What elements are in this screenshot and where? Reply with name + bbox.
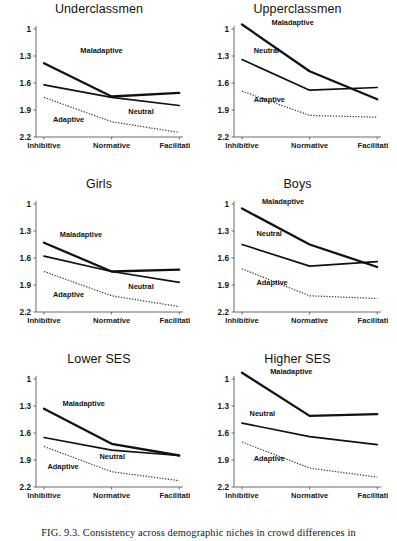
panel-boys: Boys 2.21.91.61.31InhibitiveNormativeFac…: [198, 175, 397, 350]
x-tick-label: Facilitative: [358, 141, 388, 150]
y-tick-label: 1.3: [20, 227, 32, 236]
panel-lower-ses: Lower SES 2.21.91.61.31InhibitiveNormati…: [0, 350, 198, 508]
plot-area: 2.21.91.61.31InhibitiveNormativeFacilita…: [198, 369, 397, 519]
x-tick-label: Normative: [291, 316, 328, 325]
y-tick-label: 1: [224, 375, 229, 384]
x-tick-label: Inhibitive: [225, 316, 258, 325]
series-label-neutral: Neutral: [128, 107, 153, 116]
chart-svg: 2.21.91.61.31InhibitiveNormativeFacilita…: [0, 19, 190, 169]
series-label-adaptive: Adaptive: [53, 290, 84, 299]
series-label-neutral: Neutral: [100, 452, 125, 461]
x-tick-label: Normative: [291, 491, 328, 500]
figure-caption: FIG. 9.3. Consistency across demographic…: [0, 526, 397, 539]
x-tick-label: Facilitative: [358, 491, 388, 500]
y-tick-label: 1.3: [218, 227, 230, 236]
y-tick-label: 1.9: [218, 281, 230, 290]
chart-svg: 2.21.91.61.31InhibitiveNormativeFacilita…: [0, 369, 190, 519]
series-label-maladaptive: Maladaptive: [80, 46, 122, 55]
x-tick-label: Facilitative: [358, 316, 388, 325]
series-label-adaptive: Adaptive: [254, 95, 285, 104]
x-tick-label: Inhibitive: [27, 141, 60, 150]
series-label-adaptive: Adaptive: [256, 278, 287, 287]
panel-grid: Underclassmen 2.21.91.61.31InhibitiveNor…: [0, 0, 397, 508]
panel-girls: Girls 2.21.91.61.31InhibitiveNormativeFa…: [0, 175, 198, 350]
chart-svg: 2.21.91.61.31InhibitiveNormativeFacilita…: [198, 19, 388, 169]
panel-title: Lower SES: [0, 350, 198, 369]
x-tick-label: Inhibitive: [27, 491, 60, 500]
x-tick-label: Inhibitive: [27, 316, 60, 325]
series-label-neutral: Neutral: [256, 229, 281, 238]
x-tick-label: Facilitative: [160, 316, 190, 325]
series-label-maladaptive: Maladaptive: [262, 197, 304, 206]
series-label-maladaptive: Maladaptive: [63, 399, 105, 408]
figure-9-3: Underclassmen 2.21.91.61.31InhibitiveNor…: [0, 0, 397, 541]
series-label-maladaptive: Maladaptive: [270, 369, 312, 376]
chart-svg: 2.21.91.61.31InhibitiveNormativeFacilita…: [0, 194, 190, 344]
chart-svg: 2.21.91.61.31InhibitiveNormativeFacilita…: [198, 194, 388, 344]
x-tick-label: Inhibitive: [225, 491, 258, 500]
panel-title: Underclassmen: [0, 0, 198, 19]
series-label-adaptive: Adaptive: [47, 462, 78, 471]
series-line-maladaptive: [44, 409, 179, 456]
series-label-neutral: Neutral: [250, 409, 275, 418]
y-tick-label: 1.3: [20, 52, 32, 61]
x-tick-label: Normative: [93, 491, 130, 500]
panel-underclassmen: Underclassmen 2.21.91.61.31InhibitiveNor…: [0, 0, 198, 175]
panel-title: Boys: [198, 175, 397, 194]
y-tick-label: 1.6: [218, 79, 230, 88]
series-label-maladaptive: Maladaptive: [60, 230, 102, 239]
y-tick-label: 1.6: [218, 254, 230, 263]
series-line-neutral: [242, 245, 377, 267]
y-tick-label: 1: [26, 25, 31, 34]
plot-area: 2.21.91.61.31InhibitiveNormativeFacilita…: [198, 19, 397, 169]
y-tick-label: 1.3: [218, 52, 230, 61]
y-tick-label: 1: [224, 200, 229, 209]
plot-area: 2.21.91.61.31InhibitiveNormativeFacilita…: [0, 369, 198, 519]
series-label-neutral: Neutral: [254, 46, 279, 55]
panel-title: Higher SES: [198, 350, 397, 369]
series-line-neutral: [44, 85, 179, 106]
y-tick-label: 1.9: [218, 456, 230, 465]
y-tick-label: 1.9: [20, 281, 32, 290]
y-tick-label: 1.6: [218, 429, 230, 438]
y-tick-label: 1: [26, 200, 31, 209]
x-tick-label: Facilitative: [160, 491, 190, 500]
x-tick-label: Facilitative: [160, 141, 190, 150]
series-line-maladaptive: [44, 63, 179, 96]
series-line-neutral: [242, 60, 377, 91]
y-tick-label: 1.9: [218, 106, 230, 115]
x-tick-label: Normative: [93, 316, 130, 325]
y-tick-label: 1.9: [20, 456, 32, 465]
y-tick-label: 1.6: [20, 79, 32, 88]
y-tick-label: 1.6: [20, 429, 32, 438]
panel-title: Upperclassmen: [198, 0, 397, 19]
series-line-neutral: [242, 423, 377, 445]
plot-area: 2.21.91.61.31InhibitiveNormativeFacilita…: [198, 194, 397, 344]
series-line-maladaptive: [44, 243, 179, 272]
plot-area: 2.21.91.61.31InhibitiveNormativeFacilita…: [0, 19, 198, 169]
series-label-maladaptive: Maladaptive: [272, 19, 314, 27]
y-tick-label: 1.3: [20, 402, 32, 411]
series-line-maladaptive: [242, 209, 377, 268]
y-tick-label: 1.3: [218, 402, 230, 411]
panel-upperclassmen: Upperclassmen 2.21.91.61.31InhibitiveNor…: [198, 0, 397, 175]
panel-title: Girls: [0, 175, 198, 194]
y-tick-label: 1.9: [20, 106, 32, 115]
y-tick-label: 1.6: [20, 254, 32, 263]
y-tick-label: 1: [26, 375, 31, 384]
y-tick-label: 1: [224, 25, 229, 34]
x-tick-label: Normative: [291, 141, 328, 150]
series-label-adaptive: Adaptive: [53, 115, 84, 124]
x-tick-label: Inhibitive: [225, 141, 258, 150]
plot-area: 2.21.91.61.31InhibitiveNormativeFacilita…: [0, 194, 198, 344]
series-label-neutral: Neutral: [128, 282, 153, 291]
panel-higher-ses: Higher SES 2.21.91.61.31InhibitiveNormat…: [198, 350, 397, 508]
series-label-adaptive: Adaptive: [254, 454, 285, 463]
x-tick-label: Normative: [93, 141, 130, 150]
chart-svg: 2.21.91.61.31InhibitiveNormativeFacilita…: [198, 369, 388, 519]
